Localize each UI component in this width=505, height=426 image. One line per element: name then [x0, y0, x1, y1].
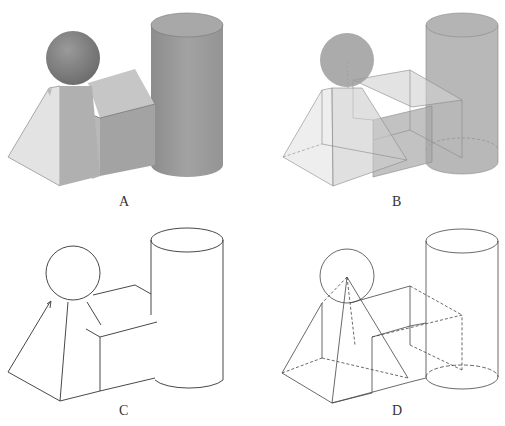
- panel-a-shaded: A: [0, 0, 252, 213]
- pyramid: [282, 277, 408, 403]
- panel-b-transparent: B: [250, 0, 502, 213]
- panel-label-a: A: [119, 194, 129, 210]
- sphere: [46, 246, 100, 300]
- shaded-scene: [0, 0, 252, 213]
- wireframe-scene: [250, 215, 502, 426]
- panel-d-wireframe: D: [250, 215, 502, 426]
- panel-label-d: D: [392, 403, 402, 419]
- stepped-block: [60, 285, 157, 401]
- pyramid: [8, 301, 101, 401]
- sphere: [46, 31, 100, 85]
- pyramid: [8, 86, 100, 186]
- sphere: [320, 33, 374, 87]
- panel-label-b: B: [392, 194, 401, 210]
- stepped-block: [332, 286, 462, 403]
- transparent-scene: [250, 0, 502, 213]
- cylinder: [151, 228, 223, 388]
- panel-c-hidden-line: C: [0, 215, 252, 426]
- panel-label-c: C: [119, 403, 128, 419]
- sphere: [320, 249, 374, 303]
- hidden-line-scene: [0, 215, 252, 426]
- cylinder: [151, 13, 223, 177]
